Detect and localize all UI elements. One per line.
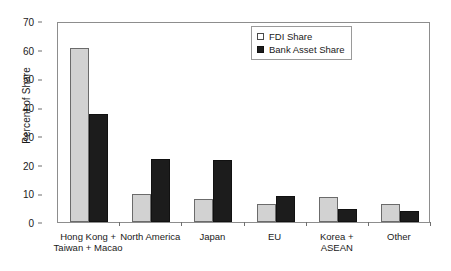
y-axis-tick: 0 <box>0 218 57 229</box>
y-axis-tick: 10 <box>0 189 57 200</box>
bar-bank-asset-share <box>89 114 108 222</box>
bar-fdi-share <box>381 204 400 222</box>
y-axis-tick: 50 <box>0 74 57 85</box>
y-axis-tick-mark <box>38 51 42 52</box>
legend-swatch-bank-icon <box>257 46 264 53</box>
bar-fdi-share <box>132 194 151 222</box>
bar-bank-asset-share <box>213 160 232 222</box>
y-axis-tick-mark <box>38 223 42 224</box>
bar-bank-asset-share <box>338 209 357 222</box>
bar-fdi-share <box>319 197 338 222</box>
y-axis-tick: 60 <box>0 45 57 56</box>
y-axis-tick-label: 30 <box>0 131 38 142</box>
plot-area <box>57 22 430 223</box>
bar-bank-asset-share <box>400 211 419 222</box>
y-axis-tick-mark <box>38 79 42 80</box>
y-axis-tick-mark <box>38 108 42 109</box>
y-axis-tick-label: 60 <box>0 45 38 56</box>
legend-label-fdi: FDI Share <box>269 31 312 42</box>
bar-fdi-share <box>194 199 213 222</box>
y-axis-tick-mark <box>38 22 42 23</box>
x-axis-tick-mark <box>368 222 369 226</box>
y-axis-tick-mark <box>38 165 42 166</box>
y-axis-tick-label: 50 <box>0 74 38 85</box>
x-axis-category-label-line: Taiwan + Macao <box>49 242 127 253</box>
x-axis-tick-mark <box>181 222 182 226</box>
bar-fdi-share <box>257 204 276 222</box>
bar-fdi-share <box>70 48 89 222</box>
legend-item: FDI Share <box>257 30 345 43</box>
x-axis-tick-mark <box>119 222 120 226</box>
bar-group <box>369 23 431 222</box>
x-axis-category-label-line: ASEAN <box>298 242 376 253</box>
x-axis-category-label-line: Other <box>360 231 438 242</box>
x-axis-category-label: Other <box>360 231 438 242</box>
y-axis-tick-label: 20 <box>0 160 38 171</box>
x-axis-tick-mark <box>244 222 245 226</box>
y-axis-tick: 30 <box>0 131 57 142</box>
plot-inner <box>58 23 429 222</box>
bar-bank-asset-share <box>151 159 170 222</box>
bar-group <box>120 23 182 222</box>
bar-group <box>182 23 244 222</box>
x-axis-tick-mark <box>306 222 307 226</box>
bar-group <box>58 23 120 222</box>
x-axis-tick-mark <box>430 222 431 226</box>
legend-swatch-fdi-icon <box>257 33 264 40</box>
y-axis-tick: 40 <box>0 103 57 114</box>
y-axis-tick-label: 40 <box>0 103 38 114</box>
y-axis-tick: 70 <box>0 17 57 28</box>
y-axis-tick-label: 70 <box>0 17 38 28</box>
bar-chart: Percent of Share 010203040506070 Hong Ko… <box>0 0 451 271</box>
y-axis-tick-label: 0 <box>0 218 38 229</box>
y-axis-tick: 20 <box>0 160 57 171</box>
legend-item: Bank Asset Share <box>257 43 345 56</box>
y-axis-tick-label: 10 <box>0 189 38 200</box>
legend-label-bank: Bank Asset Share <box>269 44 345 55</box>
legend: FDI Share Bank Asset Share <box>251 26 352 60</box>
y-axis-tick-mark <box>38 194 42 195</box>
bar-bank-asset-share <box>276 196 295 222</box>
y-axis-tick-mark <box>38 137 42 138</box>
